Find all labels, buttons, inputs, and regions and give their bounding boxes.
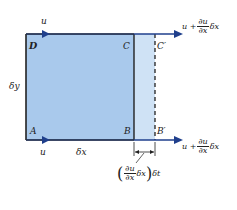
dim-arrow-icon (150, 150, 154, 154)
fraction-denominator: ∂x (199, 147, 208, 155)
displacement-label: ( ∂u ∂x δx ) δt (117, 164, 160, 183)
paren-open: ( (117, 164, 123, 183)
expr-suffix: δx (210, 22, 219, 31)
top-velocity-label: u (41, 16, 47, 26)
corner-C: C (123, 41, 130, 51)
expr-inner-suffix: δx (137, 169, 146, 178)
dim-arrow-icon (135, 150, 139, 154)
height-label: δy (9, 81, 20, 91)
bottom-right-velocity-label: u + ∂u ∂x δx (182, 138, 219, 155)
expr-outer-suffix: δt (152, 169, 160, 178)
width-label: δx (76, 147, 87, 157)
leader-line (136, 153, 144, 163)
fraction-denominator: ∂x (199, 27, 208, 35)
expr-prefix: u + (182, 142, 196, 151)
corner-B-prime: B′ (156, 126, 166, 136)
corner-D: D (28, 40, 38, 51)
partial-fraction: ∂u ∂x (124, 165, 135, 182)
bottom-velocity-label: u (40, 147, 46, 157)
top-right-velocity-label: u + ∂u ∂x δx (182, 18, 219, 35)
corner-A: A (29, 126, 37, 136)
fraction-denominator: ∂x (126, 174, 135, 182)
partial-fraction: ∂u ∂x (197, 138, 208, 155)
deformation-region (134, 34, 155, 140)
corner-B: B (123, 126, 131, 136)
expr-suffix: δx (210, 142, 219, 151)
corner-C-prime: C′ (157, 41, 166, 51)
fluid-element (26, 34, 134, 140)
partial-fraction: ∂u ∂x (197, 18, 208, 35)
expr-prefix: u + (182, 22, 196, 31)
